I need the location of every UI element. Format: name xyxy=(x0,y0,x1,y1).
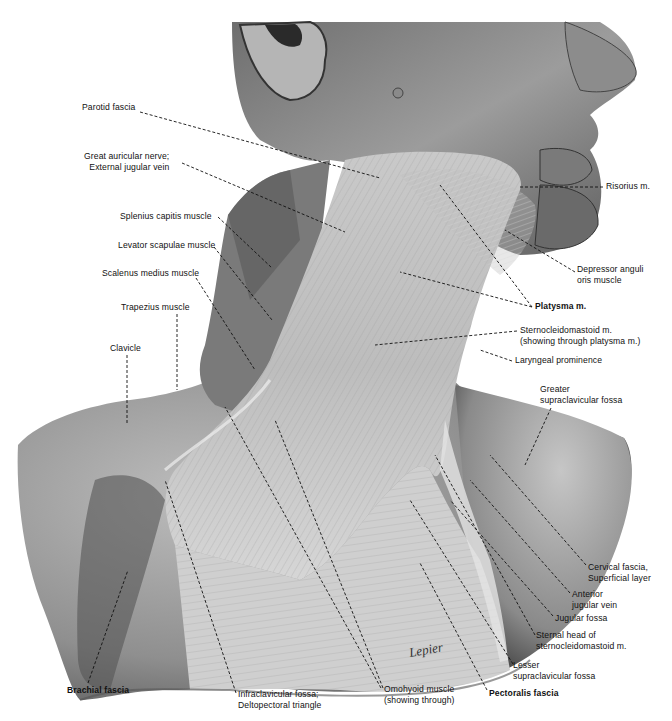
label-levator-scapulae: Levator scapulae muscle xyxy=(118,240,215,251)
label-brachial-fascia: Brachial fascia xyxy=(67,685,129,696)
label-lesser-supraclavicular-fossa: Lesser supraclavicular fossa xyxy=(513,660,595,682)
label-scalenus-medius: Scalenus medius muscle xyxy=(102,268,199,279)
label-trapezius: Trapezius muscle xyxy=(121,302,190,313)
label-cervical-fascia: Cervical fascia, Superficial layer xyxy=(588,562,651,584)
label-pectoralis-fascia: Pectoralis fascia xyxy=(489,688,559,699)
label-omohyoid: Omohyoid muscle (showing through) xyxy=(384,684,455,706)
label-sternocleidomastoid: Sternocleidomastoid m. (showing through … xyxy=(520,325,640,347)
label-laryngeal-prominence: Laryngeal prominence xyxy=(515,355,602,366)
label-parotid-fascia: Parotid fascia xyxy=(82,102,135,113)
label-sternal-head: Sternal head of sternocleidomastoid m. xyxy=(536,630,627,652)
label-depressor-anguli-oris: Depressor anguli oris muscle xyxy=(577,264,644,286)
label-platysma: Platysma m. xyxy=(535,301,586,312)
label-clavicle: Clavicle xyxy=(110,343,141,354)
label-great-auricular-nerve: Great auricular nerve; External jugular … xyxy=(84,151,169,173)
label-splenius-capitis: Splenius capitis muscle xyxy=(120,211,212,222)
label-anterior-jugular-vein: Anterior jugular vein xyxy=(572,589,617,611)
label-risorius: Risorius m. xyxy=(606,181,650,192)
label-infraclavicular-fossa: Infraclavicular fossa; Deltopectoral tri… xyxy=(238,689,321,711)
label-greater-supraclavicular-fossa: Greater supraclavicular fossa xyxy=(540,384,622,406)
label-jugular-fossa: Jugular fossa xyxy=(555,613,607,624)
